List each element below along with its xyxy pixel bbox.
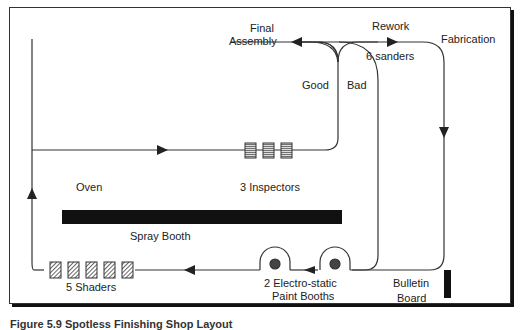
label-final-assembly-2: Assembly	[229, 35, 277, 48]
arrow-left-booths	[304, 266, 315, 274]
label-paint-booths-2: Paint Booths	[272, 290, 334, 303]
label-inspectors: 3 Inspectors	[240, 181, 300, 194]
label-rework: Rework	[372, 20, 409, 33]
label-spray-booth: Spray Booth	[130, 230, 191, 243]
label-oven: Oven	[76, 181, 102, 194]
arrow-up-left	[27, 188, 37, 199]
arrow-rework	[387, 37, 398, 47]
figure-caption: Figure 5.9 Spotless Finishing Shop Layou…	[10, 318, 232, 330]
label-bulletin: Bulletin	[393, 277, 429, 290]
label-sanders: 6 sanders	[366, 50, 414, 63]
spray-booth	[62, 210, 342, 224]
label-board: Board	[397, 292, 426, 305]
label-good: Good	[302, 79, 329, 92]
inspector-stations	[245, 143, 300, 158]
label-final-assembly: Final	[250, 22, 274, 35]
paint-booths	[260, 247, 350, 270]
label-fabrication: Fabrication	[441, 33, 495, 46]
arrow-down-fabrication	[439, 127, 449, 138]
arrow-to-final-assembly	[291, 37, 302, 47]
shader-stations	[50, 262, 133, 278]
bulletin-board	[444, 270, 451, 298]
arrow-left-bottom	[184, 265, 195, 275]
label-paint-booths-1: 2 Electro-static	[264, 277, 337, 290]
arrow-right-oven	[157, 145, 168, 155]
label-shaders: 5 Shaders	[66, 281, 116, 294]
label-bad: Bad	[347, 79, 367, 92]
